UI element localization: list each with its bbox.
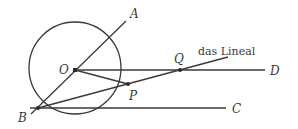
point-Q (178, 68, 182, 72)
label-O: O (59, 63, 69, 77)
label-Q: Q (174, 52, 184, 66)
label-C: C (232, 102, 241, 116)
point-O (73, 68, 77, 72)
point-B (36, 106, 40, 110)
ruler-label: das Lineal (198, 45, 256, 58)
label-P: P (128, 89, 138, 103)
label-B: B (17, 111, 27, 125)
line-BA (31, 21, 126, 114)
point-P (126, 82, 130, 86)
geometry-diagram: A O B P Q C D das Lineal (0, 0, 298, 129)
label-A: A (129, 7, 139, 21)
label-D: D (269, 64, 280, 78)
